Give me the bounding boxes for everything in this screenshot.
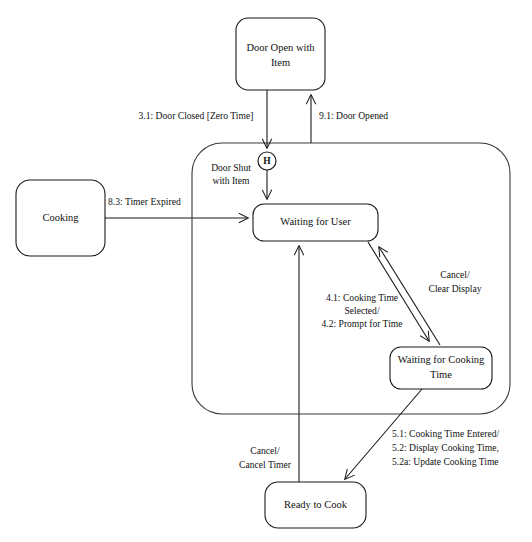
state-label-waiting-cooking-line1: Waiting for Cooking: [398, 354, 485, 365]
state-diagram-svg: Door Shut with Item Door Open with Item …: [0, 0, 532, 542]
transition-label-timer-expired: 8.3: Timer Expired: [108, 196, 181, 207]
superstate-label-line2: with Item: [212, 175, 250, 186]
transition-cancel-cancel-timer[interactable]: Cancel/ Cancel Timer: [239, 246, 299, 482]
state-ready-to-cook[interactable]: Ready to Cook: [265, 482, 366, 528]
state-label-door-open-line1: Door Open with: [246, 42, 315, 53]
transition-label-cooking-entered-line1: 5.1: Cooking Time Entered/: [392, 428, 499, 439]
state-cooking[interactable]: Cooking: [16, 180, 105, 256]
state-label-waiting-for-user: Waiting for User: [280, 216, 351, 227]
state-waiting-for-cooking-time[interactable]: Waiting for Cooking Time: [390, 347, 492, 389]
state-door-open-with-item[interactable]: Door Open with Item: [236, 18, 325, 90]
transition-label-cooking-selected-line3: 4.2: Prompt for Time: [321, 318, 402, 329]
history-symbol: H: [263, 156, 271, 166]
superstate-label-line1: Door Shut: [211, 162, 251, 173]
state-label-door-open-line2: Item: [271, 57, 290, 68]
state-box-door-open-with-item: [236, 18, 325, 90]
uml-state-diagram-canvas: Door Shut with Item Door Open with Item …: [0, 0, 532, 542]
transition-cooking-time-entered[interactable]: 5.1: Cooking Time Entered/ 5.2: Display …: [345, 389, 499, 479]
transition-door-opened[interactable]: 9.1: Door Opened: [311, 95, 388, 143]
state-label-waiting-cooking-line2: Time: [430, 369, 452, 380]
state-waiting-for-user[interactable]: Waiting for User: [253, 204, 378, 241]
transition-timer-expired[interactable]: 8.3: Timer Expired: [105, 196, 248, 218]
history-pseudostate[interactable]: H: [258, 152, 276, 170]
transition-label-door-opened: 9.1: Door Opened: [319, 110, 388, 121]
transition-label-cancel-timer-line2: Cancel Timer: [239, 459, 292, 470]
transition-cooking-time-selected[interactable]: 4.1: Cooking Time Selected/ 4.2: Prompt …: [321, 242, 429, 341]
transition-label-cooking-entered-line2: 5.2: Display Cooking Time,: [392, 442, 499, 453]
state-box-waiting-for-cooking-time: [390, 347, 492, 389]
transition-label-cooking-selected-line2: Selected/: [344, 305, 379, 316]
state-label-cooking: Cooking: [42, 212, 79, 223]
transition-label-cancel-clear-line1: Cancel/: [440, 269, 470, 280]
transition-label-cooking-selected-line1: 4.1: Cooking Time: [326, 292, 398, 303]
state-label-ready-to-cook: Ready to Cook: [284, 499, 348, 510]
transition-label-cancel-clear-line2: Clear Display: [428, 283, 481, 294]
transition-label-cancel-timer-line1: Cancel/: [250, 445, 280, 456]
transition-label-door-closed: 3.1: Door Closed [Zero Time]: [139, 110, 254, 121]
transition-label-cooking-entered-line3: 5.2a: Update Cooking Time: [392, 456, 499, 467]
transition-door-closed-zero-time[interactable]: 3.1: Door Closed [Zero Time]: [139, 90, 267, 148]
